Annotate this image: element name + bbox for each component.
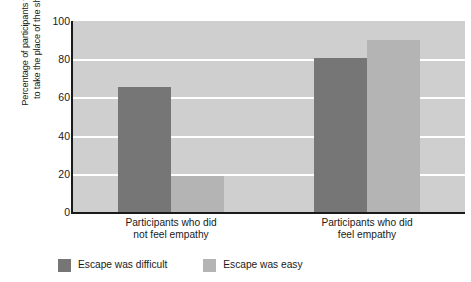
x-axis-label-line: feel empathy [269, 229, 465, 241]
x-axis-label-line: not feel empathy [73, 229, 269, 241]
x-axis-label-group-2: Participants who didfeel empathy [269, 217, 465, 242]
bar-1-2 [171, 176, 224, 212]
y-axis-tick-0: 0 [64, 207, 70, 218]
legend-swatch-icon [58, 259, 71, 272]
x-axis-label-line: Participants who did [269, 217, 465, 229]
legend-swatch-icon [203, 259, 216, 272]
x-axis-label-line: Participants who did [73, 217, 269, 229]
y-axis-tick-20: 20 [58, 168, 70, 179]
legend-item-1: Escape was difficult [58, 259, 167, 272]
x-axis-category-labels: Participants who didnot feel empathyPart… [73, 217, 465, 249]
y-axis-tick-40: 40 [58, 130, 70, 141]
y-axis-tick-labels: 020406080100 [40, 21, 70, 212]
legend-spacer [167, 265, 203, 266]
bar-chart: Percentage of participants volunteering … [0, 0, 471, 282]
bar-1-1 [118, 87, 171, 212]
legend-label: Escape was easy [223, 259, 302, 271]
bar-2-2 [367, 40, 420, 212]
x-axis-line [71, 212, 465, 214]
y-axis-tick-100: 100 [52, 16, 70, 27]
legend-label: Escape was difficult [78, 259, 167, 271]
chart-legend: Escape was difficultEscape was easy [58, 256, 303, 274]
legend-item-2: Escape was easy [203, 259, 302, 272]
x-axis-label-group-1: Participants who didnot feel empathy [73, 217, 269, 242]
plot-area [73, 21, 465, 212]
y-axis-tick-60: 60 [58, 92, 70, 103]
y-axis-tick-80: 80 [58, 54, 70, 65]
y-axis-title-line-1: Percentage of participants volunteering [20, 0, 32, 106]
bar-2-1 [314, 58, 367, 212]
